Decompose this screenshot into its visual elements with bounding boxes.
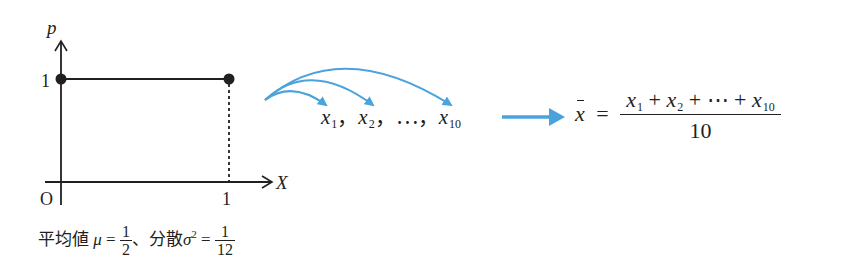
x-axis-label: X	[276, 173, 288, 192]
num-x2-sub: 2	[677, 100, 683, 114]
ellipsis: ⋯	[396, 105, 418, 129]
mean-label: 平均値	[38, 230, 89, 249]
x1-sub: 1	[331, 117, 337, 131]
plus-3: +	[734, 87, 746, 112]
num-x10: x	[752, 87, 762, 112]
mean-formula: x = x1 + x2 + ⋯ + x10 10	[575, 89, 781, 142]
x-tick-label: 1	[222, 190, 231, 208]
num-x2: x	[666, 87, 676, 112]
arrow-to-x10	[265, 69, 451, 105]
plus-2: +	[689, 87, 701, 112]
sample-values: x1，x2，⋯，x10	[321, 107, 461, 128]
equals-sign: =	[106, 230, 116, 249]
x2-sub: 2	[369, 117, 375, 131]
num-x1-sub: 1	[637, 100, 643, 114]
formula-denominator: 10	[620, 114, 781, 142]
variance-label: 分散	[149, 230, 183, 249]
sigma-exponent: 2	[191, 228, 197, 240]
x1-var: x	[321, 105, 330, 129]
y-tick-label: 1	[41, 72, 50, 90]
graph	[45, 41, 272, 205]
plus-1: +	[648, 87, 660, 112]
xbar-symbol: x	[575, 103, 585, 125]
x10-var: x	[439, 105, 448, 129]
num-ellipsis: ⋯	[707, 87, 729, 112]
formula-numerator: x1 + x2 + ⋯ + x10	[620, 89, 781, 114]
equals-sign-2: =	[201, 230, 211, 249]
num-x10-sub: 10	[763, 100, 775, 114]
compute-arrow	[502, 108, 565, 126]
formula-equals: =	[596, 101, 608, 126]
endpoint-right	[224, 74, 235, 85]
mu-symbol: μ	[93, 230, 102, 249]
endpoint-left	[56, 74, 67, 85]
sep-3: ，	[418, 105, 439, 129]
variance-denominator: 12	[215, 240, 235, 258]
formula-fraction: x1 + x2 + ⋯ + x10 10	[620, 89, 781, 142]
x10-sub: 10	[449, 117, 461, 131]
origin-label: O	[40, 190, 53, 208]
arrowhead-icon	[549, 108, 565, 126]
mean-denominator: 2	[120, 240, 132, 258]
separator: 、	[132, 230, 149, 249]
num-x1: x	[626, 87, 636, 112]
y-axis-label: p	[47, 18, 57, 37]
variance-numerator: 1	[215, 224, 235, 240]
sampling-arrows	[265, 69, 451, 105]
variance-fraction: 1 12	[215, 224, 235, 258]
sep-1: ，	[337, 105, 358, 129]
mean-numerator: 1	[120, 224, 132, 240]
mean-fraction: 1 2	[120, 224, 132, 258]
distribution-caption: 平均値 μ = 1 2 、分散σ2 = 1 12	[38, 224, 235, 258]
sep-2: ，	[375, 105, 396, 129]
x2-var: x	[358, 105, 367, 129]
